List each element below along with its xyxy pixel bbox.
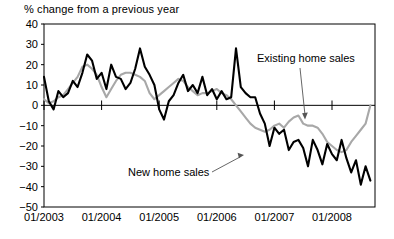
y-label-neg10: −10 [19,120,38,132]
x-label-2006: 01/2006 [197,211,237,223]
x-label-2007: 01/2007 [255,211,295,223]
annotation-label-existing-home-sales: Existing home sales [257,52,355,64]
y-axis: 40 30 20 10 0 −10 −20 −30 −40 −50 [19,18,44,213]
y-label-neg20: −20 [19,140,38,152]
x-label-2005: 01/2005 [139,211,179,223]
y-label-10: 10 [26,79,38,91]
y-label-neg40: −40 [19,181,38,193]
y-label-40: 40 [26,18,38,30]
annotation-label-new-home-sales: New home sales [128,166,210,178]
line-chart-plot: 40 30 20 10 0 −10 −20 −30 −40 −50 01/200… [0,0,394,239]
x-label-2004: 01/2004 [82,211,122,223]
y-label-20: 20 [26,59,38,71]
y-label-0: 0 [32,99,38,111]
y-label-30: 30 [26,38,38,50]
x-axis-labels: 01/2003 01/2004 01/2005 01/2006 01/2007 … [24,211,352,223]
x-label-2008: 01/2008 [312,211,352,223]
x-label-2003: 01/2003 [24,211,64,223]
y-label-neg30: −30 [19,160,38,172]
chart-figure: % change from a previous year 40 30 20 1… [0,0,394,239]
